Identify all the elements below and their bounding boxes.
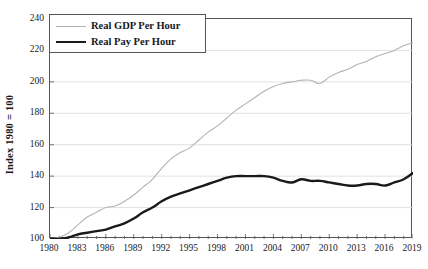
legend-item-real-gdp-per-hour: Real GDP Per Hour bbox=[56, 18, 199, 34]
x-tick-label: 2019 bbox=[395, 243, 428, 253]
x-tick-label: 1986 bbox=[88, 243, 122, 253]
y-tick-label: 220 bbox=[14, 44, 44, 54]
x-tick-label: 1989 bbox=[116, 243, 150, 253]
x-tick-label: 1980 bbox=[32, 243, 66, 253]
chart-legend: Real GDP Per Hour Real Pay Per Hour bbox=[49, 14, 206, 53]
x-tick-label: 1992 bbox=[144, 243, 178, 253]
x-tick-label: 1998 bbox=[200, 243, 234, 253]
x-tick-label: 2007 bbox=[283, 243, 317, 253]
x-tick-label: 1983 bbox=[60, 243, 94, 253]
x-tick-label: 2016 bbox=[367, 243, 401, 253]
legend-item-real-pay-per-hour: Real Pay Per Hour bbox=[56, 34, 199, 50]
y-tick-label: 240 bbox=[14, 13, 44, 23]
y-tick-label: 140 bbox=[14, 170, 44, 180]
chart-figure: Index 1980 = 100 10012014016018020022024… bbox=[0, 0, 428, 269]
series-line-real-gdp-per-hour bbox=[50, 43, 413, 239]
gridlines bbox=[50, 50, 413, 207]
legend-line-swatch-pay-icon bbox=[56, 38, 86, 46]
x-tick-label: 1995 bbox=[172, 243, 206, 253]
x-tick-label: 2004 bbox=[255, 243, 289, 253]
legend-label-pay: Real Pay Per Hour bbox=[91, 36, 176, 48]
x-tick-label: 2001 bbox=[227, 243, 261, 253]
y-tick-label: 200 bbox=[14, 76, 44, 86]
y-tick-label: 180 bbox=[14, 107, 44, 117]
series-line-real-pay-per-hour bbox=[50, 173, 413, 239]
x-axis-tick-marks bbox=[50, 234, 413, 239]
y-tick-label: 120 bbox=[14, 202, 44, 212]
x-tick-label: 2013 bbox=[339, 243, 373, 253]
y-tick-label: 100 bbox=[14, 233, 44, 243]
x-tick-label: 2010 bbox=[311, 243, 345, 253]
legend-label-gdp: Real GDP Per Hour bbox=[91, 20, 180, 32]
legend-line-swatch-gdp-icon bbox=[56, 22, 86, 30]
y-axis-title: Index 1980 = 100 bbox=[0, 0, 18, 269]
y-tick-label: 160 bbox=[14, 139, 44, 149]
